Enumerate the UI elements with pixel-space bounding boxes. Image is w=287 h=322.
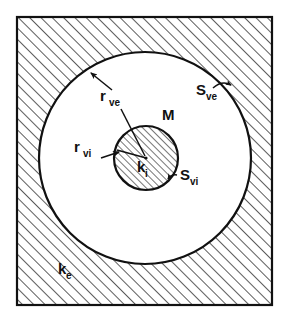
label-r-vi-base: r — [74, 138, 80, 155]
label-k-e-subscript: e — [66, 270, 72, 281]
label-k-i-subscript: i — [145, 168, 148, 179]
label-s-ve-subscript: ve — [206, 91, 218, 102]
label-s-vi-subscript: vi — [190, 176, 199, 187]
label-r-ve-subscript: ve — [109, 97, 121, 108]
label-m-base: M — [162, 106, 175, 123]
label-r-vi-subscript: vi — [83, 148, 92, 159]
label-m: M — [162, 106, 175, 123]
concentric-region-diagram: r ve r vi S ve S vi k i k e M — [0, 0, 287, 322]
label-r-ve-base: r — [100, 87, 106, 104]
label-s-ve-base: S — [196, 81, 206, 98]
label-s-vi-base: S — [180, 166, 190, 183]
figure-container: r ve r vi S ve S vi k i k e M — [0, 0, 287, 322]
